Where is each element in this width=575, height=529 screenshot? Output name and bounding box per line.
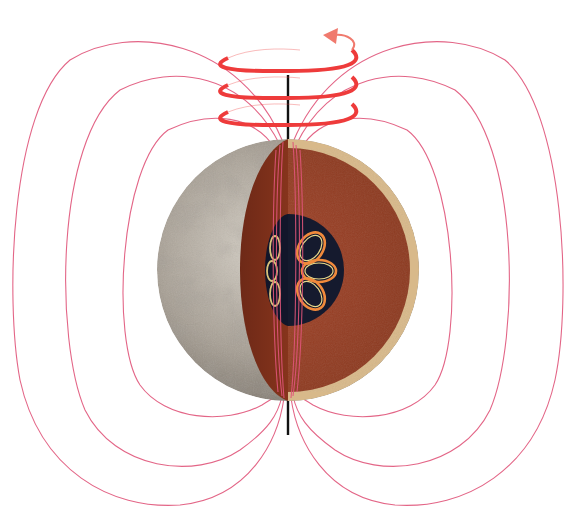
rotation-arrow-tail xyxy=(335,35,354,50)
planet xyxy=(157,139,419,401)
diagram-canvas xyxy=(0,0,575,529)
dynamo-diagram: Planetary dynamo: magnetic field generat… xyxy=(0,0,575,529)
rotation-arrow-icon xyxy=(323,28,338,44)
